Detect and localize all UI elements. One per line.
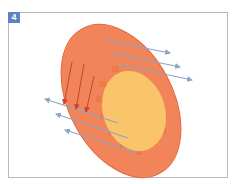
cell-diagram — [0, 0, 238, 184]
